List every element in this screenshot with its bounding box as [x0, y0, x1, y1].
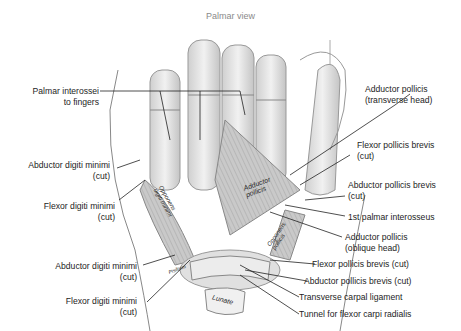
label-adductor-pollicis-transverse: Adductor pollicis (transverse head) [365, 84, 432, 106]
label-flexor-digiti-minimi-lower: Flexor digiti minimi (cut) [66, 296, 137, 318]
label-flexor-pollicis-brevis-lower: Flexor pollicis brevis (cut) [312, 259, 409, 270]
label-abductor-pollicis-brevis-lower: Abductor pollicis brevis (cut) [304, 276, 411, 287]
label-transverse-carpal-ligament: Transverse carpal ligament [299, 292, 402, 303]
label-flexor-pollicis-brevis-upper: Flexor pollicis brevis (cut) [357, 140, 434, 162]
label-adductor-pollicis-oblique: Adductor pollicis (oblique head) [345, 232, 408, 254]
label-abductor-digiti-minimi-lower: Abductor digiti minimi (cut) [55, 261, 137, 283]
label-palmar-interossei: Palmar interossei to fingers [33, 86, 99, 108]
label-abductor-digiti-minimi-upper: Abductor digiti minimi (cut) [28, 160, 110, 182]
label-tunnel-flexor-carpi-radialis: Tunnel for flexor carpi radialis [299, 309, 411, 320]
label-1st-palmar-interosseus: 1st palmar interosseus [348, 212, 434, 223]
label-flexor-digiti-minimi-upper: Flexor digiti minimi (cut) [44, 201, 115, 223]
label-abductor-pollicis-brevis-upper: Abductor pollicis brevis (cut) [348, 180, 436, 202]
